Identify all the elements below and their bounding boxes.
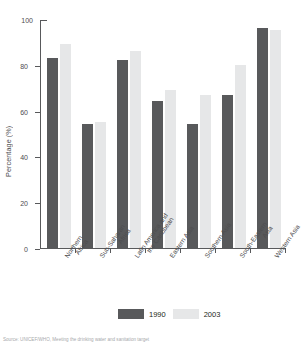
- bar-1990-2: [117, 60, 128, 248]
- legend-swatch-2003: [173, 309, 199, 319]
- x-axis-category-labels: NorthernAfricaSub-SaharanAfricaLatin Ame…: [41, 251, 286, 311]
- bar-2003-1: [95, 122, 106, 248]
- bar-2003-0: [60, 44, 71, 248]
- chart-figure: Percentage (%) 020406080100 NorthernAfri…: [0, 0, 304, 346]
- bar-group: [251, 20, 286, 248]
- chart-legend: 19902003: [118, 309, 220, 319]
- y-tick-label-40: 40: [20, 154, 28, 161]
- source-note: Source: UNICEF/WHO, Meeting the drinking…: [3, 337, 149, 343]
- legend-swatch-1990: [118, 309, 144, 319]
- bar-group: [41, 20, 76, 248]
- legend-item-2003[interactable]: 2003: [173, 309, 221, 319]
- y-tick-80: 80: [35, 66, 40, 67]
- y-tick-label-20: 20: [20, 200, 28, 207]
- bar-1990-1: [82, 124, 93, 248]
- y-tick-label-80: 80: [20, 62, 28, 69]
- bar-2003-6: [270, 30, 281, 248]
- bar-2003-5: [235, 65, 246, 248]
- bar-group: [181, 20, 216, 248]
- legend-item-1990[interactable]: 1990: [118, 309, 166, 319]
- bar-1990-6: [257, 28, 268, 248]
- y-tick-label-100: 100: [21, 17, 33, 24]
- y-axis-label: Percentage (%): [2, 96, 16, 206]
- bar-1990-0: [47, 58, 58, 248]
- y-tick-40: 40: [35, 157, 40, 158]
- bar-2003-2: [130, 51, 141, 248]
- legend-label-2003: 2003: [204, 310, 221, 319]
- y-tick-20: 20: [35, 203, 40, 204]
- bar-group: [76, 20, 111, 248]
- y-tick-label-60: 60: [20, 108, 28, 115]
- bar-2003-4: [200, 95, 211, 248]
- bar-group: [111, 20, 146, 248]
- legend-label-1990: 1990: [149, 310, 166, 319]
- y-tick-0: 0: [35, 249, 40, 250]
- y-tick-label-0: 0: [24, 246, 28, 253]
- bar-group: [216, 20, 251, 248]
- y-tick-60: 60: [35, 112, 40, 113]
